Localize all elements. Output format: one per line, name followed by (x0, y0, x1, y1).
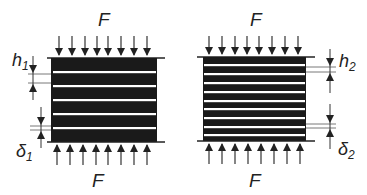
right-h2-dimension (306, 49, 336, 93)
left-h1-dimension (28, 56, 51, 100)
left-specimen: F (12, 9, 165, 191)
right-force-top-label: F (250, 9, 263, 30)
right-delta2-label: δ2 (338, 139, 355, 162)
right-top-force-arrows-icon (205, 36, 302, 55)
right-bottom-force-arrows-icon (205, 143, 304, 164)
left-bottom-force-arrows-icon (53, 144, 151, 165)
right-laminate-block (203, 57, 306, 141)
left-force-bottom-label: F (92, 170, 105, 191)
left-delta1-label: δ1 (16, 141, 33, 164)
right-specimen: F (197, 9, 356, 191)
right-delta2-dimension (306, 104, 336, 149)
left-h1-label: h1 (12, 50, 29, 73)
laminate-compression-diagram: F (0, 0, 367, 195)
left-force-top-label: F (98, 9, 111, 30)
left-top-force-arrows-icon (55, 36, 151, 56)
right-force-bottom-label: F (249, 170, 262, 191)
right-h2-label: h2 (339, 51, 356, 74)
